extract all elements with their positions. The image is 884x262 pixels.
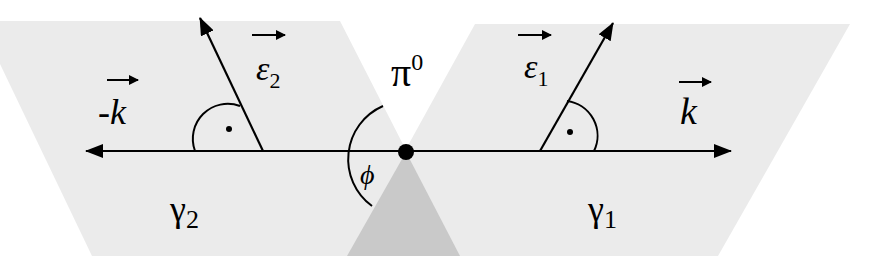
pion-decay-diagram: -k ε2 π0 ε1 k ϕ γ2 γ1 — [0, 0, 884, 262]
right-angle-right-dot-icon — [567, 129, 573, 135]
right-angle-left-dot-icon — [226, 126, 232, 132]
label-minus-k: -k — [98, 92, 127, 132]
label-phi: ϕ — [360, 159, 375, 190]
label-pi-zero: π0 — [391, 49, 423, 95]
label-k: k — [680, 90, 698, 132]
pion-vertex-dot-icon — [398, 144, 414, 160]
